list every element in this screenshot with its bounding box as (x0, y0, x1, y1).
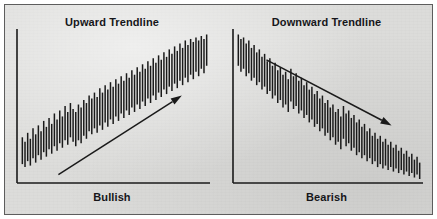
bearish-chart-svg (219, 5, 434, 216)
scanned-page-plate: Upward Trendline Bullish Downwa (4, 4, 433, 215)
upward-trend-arrow (58, 96, 181, 175)
bullish-plot-area (5, 5, 219, 216)
bullish-price-bars (22, 34, 206, 167)
panel-bearish-caption: Bearish (219, 191, 434, 203)
bearish-price-bars (238, 34, 419, 179)
panel-bearish: Downward Trendline Bearish (219, 5, 434, 216)
panel-bullish-caption: Bullish (5, 191, 219, 203)
trendline-figure: Upward Trendline Bullish Downwa (0, 0, 437, 219)
panel-bullish: Upward Trendline Bullish (5, 5, 219, 216)
bearish-plot-area (219, 5, 434, 216)
bullish-chart-svg (5, 5, 219, 216)
